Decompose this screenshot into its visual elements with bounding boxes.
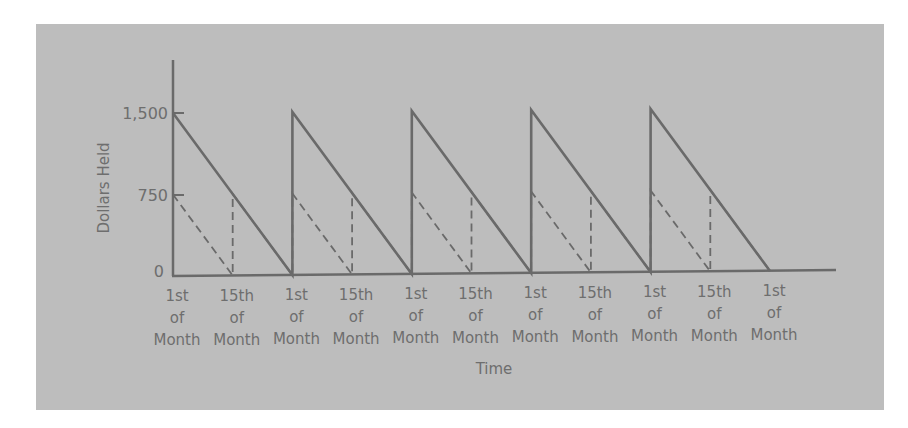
- x-tick-label: of: [409, 307, 424, 325]
- x-tick-label: of: [229, 309, 244, 327]
- x-tick-label: Month: [392, 329, 439, 347]
- x-tick-label: Month: [631, 327, 678, 345]
- ytick-label-1500: 1,500: [122, 104, 168, 123]
- x-tick-label: of: [528, 306, 543, 324]
- x-tick-label: of: [767, 304, 782, 322]
- x-tick-label: Month: [750, 326, 797, 344]
- x-tick-label: 1st: [524, 284, 547, 302]
- ytick-label-0: 0: [154, 262, 164, 281]
- x-tick-label: Month: [512, 328, 559, 346]
- x-tick-label: of: [170, 309, 185, 327]
- x-tick-label: 1st: [404, 285, 427, 303]
- y-axis-label: Dollars Held: [95, 142, 113, 233]
- ytick-label-750: 750: [137, 186, 168, 205]
- x-axis: [172, 270, 836, 276]
- x-tick-label: of: [707, 305, 722, 323]
- x-tick-label: Month: [333, 330, 380, 348]
- x-tick-label: of: [647, 305, 662, 323]
- x-tick-label: Month: [571, 328, 618, 346]
- x-tick-label: Month: [153, 331, 200, 349]
- x-tick-label: 15th: [697, 283, 731, 301]
- x-tick-label: 15th: [578, 284, 612, 302]
- x-tick-label: of: [468, 307, 483, 325]
- x-tick-label: of: [588, 306, 603, 324]
- x-tick-label: Month: [452, 329, 499, 347]
- x-tick-label: Month: [213, 331, 260, 349]
- x-tick-label: 1st: [165, 287, 188, 305]
- x-tick-label: 15th: [458, 285, 492, 303]
- x-tick-labels: 1stofMonth15thofMonth1stofMonth15thofMon…: [153, 282, 797, 349]
- x-tick-label: 1st: [285, 286, 308, 304]
- chart-svg: 1,500 750 0 Dollars Held Time 1stofMonth…: [0, 0, 908, 428]
- x-tick-label: of: [349, 308, 364, 326]
- x-tick-label: of: [289, 308, 304, 326]
- x-tick-label: Month: [691, 327, 738, 345]
- x-tick-label: 1st: [762, 282, 785, 300]
- x-tick-label: Month: [273, 330, 320, 348]
- x-axis-label: Time: [475, 360, 513, 378]
- x-tick-label: 15th: [219, 287, 253, 305]
- x-tick-label: 1st: [643, 283, 666, 301]
- x-tick-label: 15th: [339, 286, 373, 304]
